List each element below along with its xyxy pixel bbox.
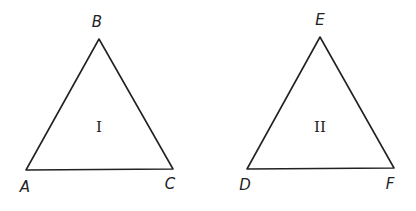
vertex-label-e: E (315, 11, 325, 29)
triangle-i: B A C I (19, 13, 176, 196)
vertex-label-a: A (19, 178, 30, 196)
triangle-diagram: B A C I E D F II (0, 0, 416, 211)
triangle-i-outline (26, 39, 173, 170)
triangle-ii: E D F II (239, 11, 394, 194)
triangle-ii-label: II (314, 118, 326, 136)
vertex-label-d: D (239, 176, 251, 194)
vertex-label-f: F (386, 175, 395, 193)
vertex-label-c: C (165, 175, 176, 193)
vertex-label-b: B (92, 13, 102, 31)
triangle-ii-outline (247, 37, 394, 169)
triangle-i-label: I (96, 118, 102, 136)
